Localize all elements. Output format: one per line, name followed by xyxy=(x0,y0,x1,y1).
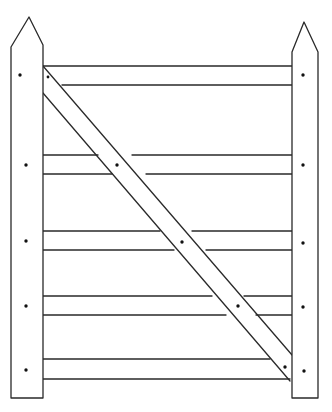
nail xyxy=(302,369,305,372)
latch-post-right xyxy=(292,22,318,398)
nail xyxy=(24,304,27,307)
nail xyxy=(283,365,286,368)
nail xyxy=(24,368,27,371)
hanging-post-left xyxy=(11,17,43,398)
nail xyxy=(180,240,183,243)
nail xyxy=(301,241,304,244)
nail xyxy=(236,304,239,307)
nail xyxy=(301,163,304,166)
nail xyxy=(18,73,21,76)
nail xyxy=(47,76,50,79)
rails xyxy=(43,66,292,379)
nail xyxy=(301,73,304,76)
diagonal-brace xyxy=(43,66,292,381)
nail xyxy=(115,163,118,166)
brace-nails xyxy=(47,76,287,369)
nail xyxy=(24,239,27,242)
nail xyxy=(301,305,304,308)
nail xyxy=(24,163,27,166)
gate-drawing xyxy=(0,0,332,412)
